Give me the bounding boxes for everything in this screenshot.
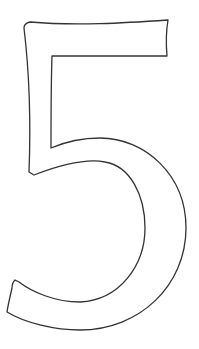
five-outline-path [7,20,186,330]
five-outline-icon [0,0,199,349]
numeral-five-figure: 5 [0,0,199,349]
